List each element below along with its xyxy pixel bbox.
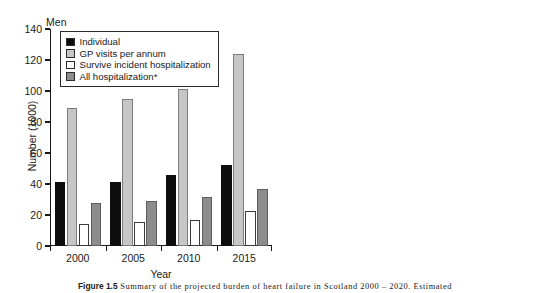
y-axis-tick xyxy=(45,90,50,91)
y-axis-tick-label: 60 xyxy=(30,148,42,159)
bar-all-hospitalization-2015 xyxy=(257,189,268,246)
y-axis-tick-label: 0 xyxy=(36,241,42,252)
y-axis-tick xyxy=(45,121,50,122)
legend-swatch-allhosp xyxy=(66,72,75,81)
legend-swatch-gp xyxy=(66,49,75,58)
legend-item: Individual xyxy=(66,36,211,48)
y-axis-tick xyxy=(45,214,50,215)
x-axis-tick-label: 2015 xyxy=(233,253,256,264)
figure-caption-text: Summary of the projected burden of heart… xyxy=(120,282,452,291)
bar-all-hospitalization-2005 xyxy=(146,201,157,246)
figure-caption-label: Figure 1.5 xyxy=(78,281,118,291)
x-axis-tick xyxy=(271,246,272,251)
x-axis-tick-label: 2010 xyxy=(177,253,200,264)
bar-all-hospitalization-2000 xyxy=(91,203,102,246)
y-axis-tick xyxy=(45,183,50,184)
bar-survive-incident-hospitalization-2015 xyxy=(245,211,256,246)
bar-survive-incident-hospitalization-2005 xyxy=(134,222,145,246)
x-axis-tick xyxy=(50,246,51,251)
y-axis-tick xyxy=(45,152,50,153)
figure-caption: Figure 1.5 Summary of the projected burd… xyxy=(78,281,548,292)
x-axis-tick xyxy=(161,246,162,251)
x-axis-tick-label: 2005 xyxy=(122,253,145,264)
legend-swatch-individual xyxy=(66,38,75,47)
legend-item: GP visits per annum xyxy=(66,48,211,60)
bar-gp-visits-2010 xyxy=(178,89,189,246)
y-axis-line-men xyxy=(50,29,51,246)
legend-item: All hospitalization* xyxy=(66,71,211,83)
y-axis-tick-label: 140 xyxy=(24,24,42,35)
bar-gp-visits-2005 xyxy=(122,99,133,246)
x-axis-tick-label: 2000 xyxy=(66,253,89,264)
y-axis-tick xyxy=(45,28,50,29)
y-axis-tick-label: 100 xyxy=(24,86,42,97)
bar-gp-visits-2000 xyxy=(67,108,78,246)
y-axis-tick-label: 40 xyxy=(30,179,42,190)
y-axis-tick xyxy=(45,59,50,60)
y-axis-tick-label: 20 xyxy=(30,210,42,221)
figure-container: Men Number (1000) Year 02040608010012014… xyxy=(0,0,553,293)
y-axis-tick-label: 80 xyxy=(30,117,42,128)
bar-gp-visits-2015 xyxy=(233,54,244,246)
y-axis-tick-label: 120 xyxy=(24,55,42,66)
legend-item-label: GP visits per annum xyxy=(80,49,166,59)
x-axis-tick xyxy=(217,246,218,251)
bar-individual-2015 xyxy=(221,165,232,246)
x-axis-tick xyxy=(106,246,107,251)
bar-survive-incident-hospitalization-2000 xyxy=(79,224,90,246)
y-axis-title-men: Number (1000) xyxy=(26,91,38,181)
legend-item-label: Individual xyxy=(80,37,121,47)
bar-survive-incident-hospitalization-2010 xyxy=(190,220,201,246)
bar-individual-2010 xyxy=(166,175,177,246)
bar-individual-2000 xyxy=(55,182,66,246)
legend-swatch-survive xyxy=(66,61,75,70)
bar-all-hospitalization-2010 xyxy=(202,197,213,246)
x-axis-title-men: Year xyxy=(150,268,171,280)
legend-item: Survive incident hospitalization xyxy=(66,59,211,71)
panel-title-men: Men xyxy=(46,16,67,28)
bar-individual-2005 xyxy=(110,182,121,246)
chart-panel-women: Women Year 2000200520102015 xyxy=(280,0,553,275)
legend-item-label: Survive incident hospitalization xyxy=(80,60,211,70)
legend-item-label: All hospitalization* xyxy=(80,72,158,82)
chart-legend: IndividualGP visits per annumSurvive inc… xyxy=(60,31,219,87)
